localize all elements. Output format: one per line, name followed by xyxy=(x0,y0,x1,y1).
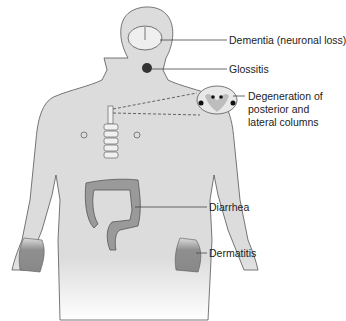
label-degeneration-1: Degeneration of xyxy=(248,90,323,102)
right-hand-icon xyxy=(175,238,201,272)
tongue-icon xyxy=(142,63,152,73)
label-degeneration-3: lateral columns xyxy=(248,116,319,128)
left-hand-icon xyxy=(19,238,44,272)
label-dermatitis: Dermatitis xyxy=(209,247,256,259)
label-dementia: Dementia (neuronal loss) xyxy=(229,34,346,46)
brain-icon xyxy=(128,26,162,50)
label-degeneration-2: posterior and xyxy=(248,103,309,115)
spinal-cord-section-icon xyxy=(197,86,237,114)
label-diarrhea: Diarrhea xyxy=(209,201,249,213)
human-figure xyxy=(12,7,258,320)
label-glossitis: Glossitis xyxy=(229,63,269,75)
